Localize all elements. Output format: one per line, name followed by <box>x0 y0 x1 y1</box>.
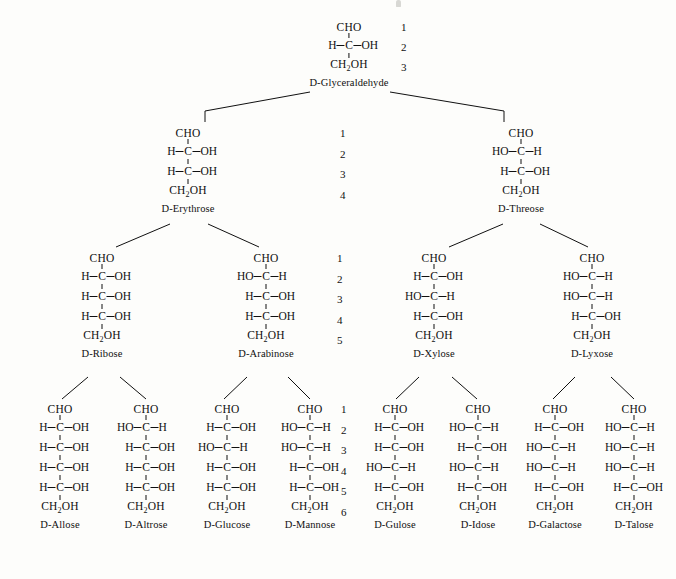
connector-line <box>540 224 588 247</box>
cho-group: CHO <box>558 253 627 264</box>
stereocenter-row: HOCH <box>361 460 430 475</box>
carbon-atom: C <box>306 422 315 433</box>
substituent-h-right: H <box>447 291 469 302</box>
substituent-oh-right: OH <box>73 442 95 453</box>
horizontal-bond <box>400 487 408 488</box>
cho-group: CHO <box>232 253 301 264</box>
carbon-number: 2 <box>401 42 407 53</box>
carbon-atom: C <box>98 271 107 282</box>
substituent-oh-right: OH <box>362 40 384 51</box>
stereocenter-row: HCOH <box>112 480 181 495</box>
carbon-atom: C <box>262 311 271 322</box>
substituent-h-left: H <box>276 482 298 493</box>
substituent-oh-right: OH <box>240 482 262 493</box>
horizontal-bond <box>526 171 534 172</box>
stereocenter-row: HCOH <box>444 480 513 495</box>
stereocenter-row: HOCH <box>112 420 181 435</box>
molecule-d-idose: CHOHOCHHCOHHOCHHCOHCH2OHD-Idose <box>444 404 513 531</box>
horizontal-bond <box>543 427 551 428</box>
horizontal-bond <box>354 45 362 46</box>
horizontal-bond <box>271 296 279 297</box>
substituent-ho-left: HO <box>558 291 580 302</box>
cho-group: CHO <box>487 128 556 139</box>
carbon-atom: C <box>430 311 439 322</box>
stereocenter-row: HOCH <box>521 460 590 475</box>
molecule-d-threose: CHOHOCHHCOHCH2OHD-Threose <box>487 128 556 215</box>
horizontal-bond <box>298 447 306 448</box>
substituent-h-right: H <box>279 271 301 282</box>
horizontal-bond <box>466 447 474 448</box>
horizontal-bond <box>439 296 447 297</box>
stereocenter-row: HCOH <box>112 460 181 475</box>
substituent-h-left: H <box>112 442 134 453</box>
substituent-oh-right: OH <box>73 482 95 493</box>
stereocenter-row: HCOH <box>68 309 137 324</box>
stereocenter-row: HCOH <box>26 480 95 495</box>
substituent-ho-left: HO <box>361 462 383 473</box>
cho-group: CHO <box>276 404 345 415</box>
ch2oh-group: CH2OH <box>232 329 301 346</box>
horizontal-bond <box>90 296 98 297</box>
substituent-h-left: H <box>600 482 622 493</box>
carbon-atom: C <box>56 462 65 473</box>
carbon-atom: C <box>306 442 315 453</box>
substituent-oh-right: OH <box>605 311 627 322</box>
ch2oh-group: CH2OH <box>154 184 223 201</box>
carbon-atom: C <box>223 462 232 473</box>
connector-line <box>224 377 247 399</box>
carbon-atom: C <box>345 40 354 51</box>
carbon-atom: C <box>588 271 597 282</box>
stereocenter-row: HOCH <box>400 289 469 304</box>
substituent-h-right: H <box>605 271 627 282</box>
stereocenter-row: HCOH <box>232 309 301 324</box>
carbon-atom: C <box>142 482 151 493</box>
stereocenter-row: HOCH <box>558 289 627 304</box>
molecule-name-label: D-Glyceraldehyde <box>309 77 388 89</box>
horizontal-bond <box>400 447 408 448</box>
horizontal-bond <box>422 296 430 297</box>
carbon-number: 2 <box>341 425 347 436</box>
cho-group: CHO <box>400 253 469 264</box>
molecule-d-arabinose: CHOHOCHHCOHHCOHCH2OHD-Arabinose <box>232 253 301 360</box>
substituent-h-right: H <box>491 462 513 473</box>
carbon-number: 3 <box>401 62 407 73</box>
molecule-d-talose: CHOHOCHHOCHHOCHHCOHCH2OHD-Talose <box>600 404 669 531</box>
horizontal-bond <box>151 447 159 448</box>
carbon-atom: C <box>630 482 639 493</box>
horizontal-bond <box>337 45 345 46</box>
carbon-number: 2 <box>340 149 346 160</box>
stereocenter-row: HCOH <box>193 420 262 435</box>
substituent-oh-right: OH <box>159 442 181 453</box>
stereocenter-row: HCOH <box>68 269 137 284</box>
cho-group: CHO <box>154 128 223 139</box>
stereocenter-row: HOCH <box>276 420 345 435</box>
substituent-ho-left: HO <box>276 422 298 433</box>
connector-line <box>116 224 170 247</box>
stereocenter-row: HOCH <box>600 440 669 455</box>
substituent-h-right: H <box>491 422 513 433</box>
substituent-h-left: H <box>444 482 466 493</box>
horizontal-bond <box>65 467 73 468</box>
ch2oh-group: CH2OH <box>361 500 430 517</box>
substituent-oh-right: OH <box>279 311 301 322</box>
cho-group: CHO <box>26 404 95 415</box>
carbon-atom: C <box>262 271 271 282</box>
horizontal-bond <box>107 276 115 277</box>
carbon-atom: C <box>630 422 639 433</box>
carbon-number: 3 <box>340 169 346 180</box>
substituent-h-right: H <box>568 442 590 453</box>
substituent-h-left: H <box>400 311 422 322</box>
substituent-h-right: H <box>568 462 590 473</box>
stereocenter-row: HOCH <box>558 269 627 284</box>
substituent-h-left: H <box>68 291 90 302</box>
ch2oh-group: CH2OH <box>309 58 388 75</box>
substituent-oh-right: OH <box>491 442 513 453</box>
connector-line <box>452 377 477 399</box>
horizontal-bond <box>383 467 391 468</box>
substituent-h-left: H <box>558 311 580 322</box>
horizontal-bond <box>254 316 262 317</box>
horizontal-bond <box>65 427 73 428</box>
carbon-atom: C <box>391 422 400 433</box>
horizontal-bond <box>383 427 391 428</box>
substituent-oh-right: OH <box>240 422 262 433</box>
